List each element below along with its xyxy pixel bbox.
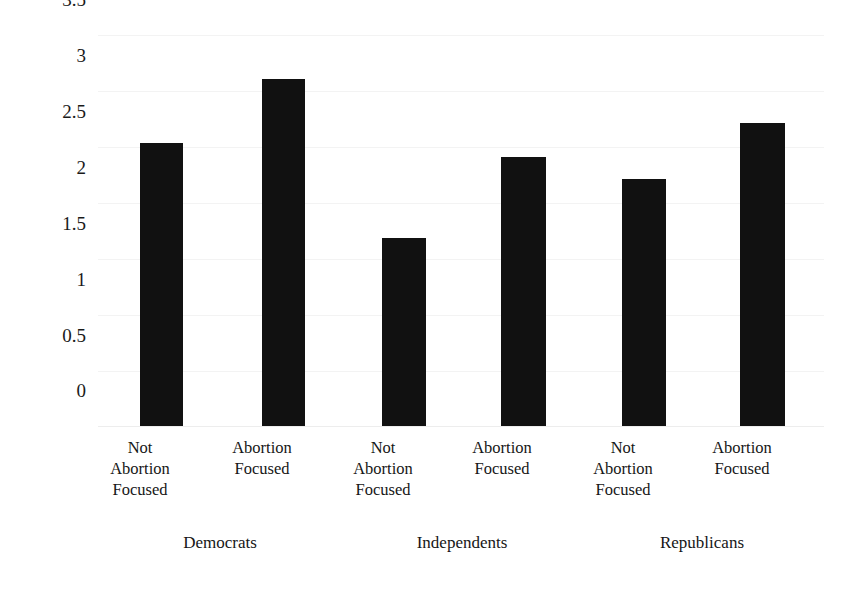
group-label-independents: Independents (382, 532, 542, 554)
group-label-democrats: Democrats (140, 532, 300, 554)
y-tick-label-3.5: 3.5 (30, 0, 86, 9)
gridline-1.5 (98, 259, 824, 260)
y-tick-label-2.5: 2.5 (30, 102, 86, 121)
x-label-line: Focused (573, 479, 673, 500)
x-label-line: Abortion (692, 437, 792, 458)
x-label-line: Focused (452, 458, 552, 479)
bar-independents-abortion-focused (501, 157, 546, 426)
y-tick-label-0: 0 (30, 381, 86, 400)
y-tick-label-1.5: 1.5 (30, 214, 86, 233)
bar-democrats-abortion-focused (262, 79, 305, 426)
x-label-line: Focused (692, 458, 792, 479)
x-label-line: Focused (333, 479, 433, 500)
x-label-independents-not-abortion-focused: Not Abortion Focused (333, 437, 433, 500)
x-label-line: Focused (212, 458, 312, 479)
gridline-3.5 (98, 35, 824, 36)
gridline-3 (98, 91, 824, 92)
x-label-line: Not (333, 437, 433, 458)
plot-area (98, 35, 824, 426)
x-label-line: Not (573, 437, 673, 458)
gridline-0.5 (98, 371, 824, 372)
y-tick-label-0.5: 0.5 (30, 326, 86, 345)
gridline-1 (98, 315, 824, 316)
bar-republicans-not-abortion-focused (622, 179, 666, 426)
x-label-republicans-abortion-focused: Abortion Focused (692, 437, 792, 479)
y-tick-label-3: 3 (30, 46, 86, 65)
x-label-democrats-not-abortion-focused: Not Abortion Focused (90, 437, 190, 500)
x-axis-baseline (98, 426, 824, 427)
x-label-line: Abortion (452, 437, 552, 458)
x-label-line: Abortion (212, 437, 312, 458)
x-label-line: Abortion (573, 458, 673, 479)
bar-chart: Mean Acts of Participation 3.5 3 2.5 2 1… (0, 0, 842, 589)
x-label-independents-abortion-focused: Abortion Focused (452, 437, 552, 479)
gridline-2.5 (98, 147, 824, 148)
x-label-democrats-abortion-focused: Abortion Focused (212, 437, 312, 479)
y-tick-label-2: 2 (30, 158, 86, 177)
group-label-republicans: Republicans (622, 532, 782, 554)
bar-democrats-not-abortion-focused (140, 143, 183, 426)
bar-republicans-abortion-focused (740, 123, 785, 426)
gridline-2 (98, 203, 824, 204)
x-label-line: Abortion (333, 458, 433, 479)
x-label-line: Focused (90, 479, 190, 500)
x-label-republicans-not-abortion-focused: Not Abortion Focused (573, 437, 673, 500)
x-label-line: Not (90, 437, 190, 458)
x-label-line: Abortion (90, 458, 190, 479)
bar-independents-not-abortion-focused (382, 238, 426, 426)
y-tick-label-1: 1 (30, 270, 86, 289)
